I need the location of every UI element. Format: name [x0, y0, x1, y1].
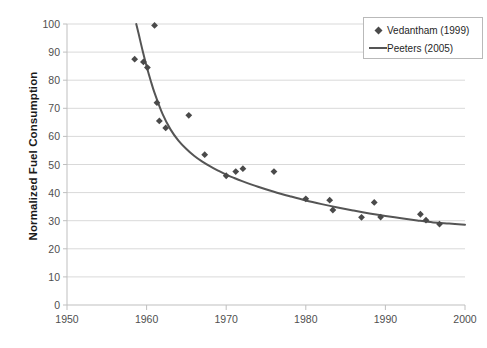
legend-item-vedantham[interactable]: Vedantham (1999)	[364, 21, 482, 39]
legend-label-peeters: Peeters (2005)	[387, 43, 453, 54]
chart-container: Normalized Fuel Consumption 010203040506…	[0, 0, 487, 348]
legend-item-peeters[interactable]: Peeters (2005)	[364, 39, 482, 57]
axis-lines	[63, 24, 465, 310]
legend: Vedantham (1999) Peeters (2005)	[363, 17, 483, 59]
diamond-marker-icon	[369, 26, 387, 35]
line-marker-icon	[369, 47, 387, 49]
legend-label-vedantham: Vedantham (1999)	[387, 25, 469, 36]
gridlines	[67, 24, 465, 305]
